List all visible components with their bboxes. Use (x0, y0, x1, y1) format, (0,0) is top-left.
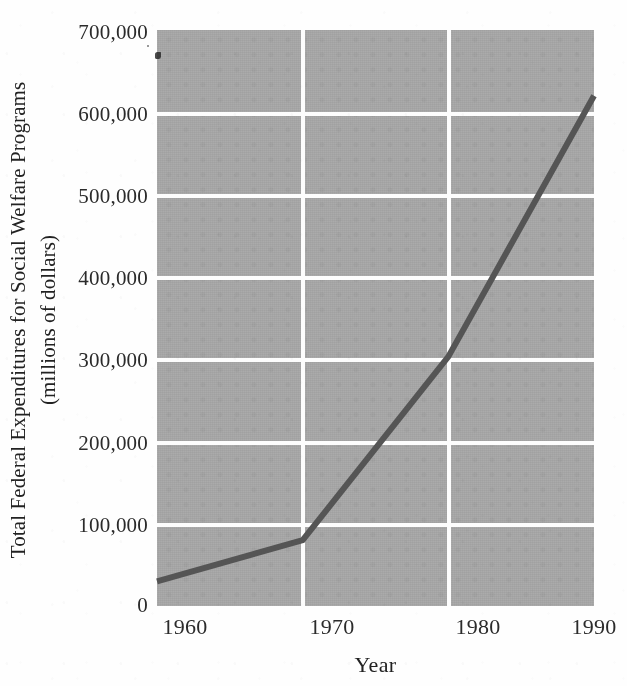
y-axis-title-line1: Total Federal Expenditures for Social We… (6, 82, 30, 559)
x-tick-1970: 1970 (309, 615, 354, 639)
scan-artifact-speck (155, 52, 161, 59)
y-tick-100000: 100,000 (78, 515, 148, 536)
y-axis-title-line2: (millions of dollars) (33, 82, 63, 559)
y-tick-500000: 500,000 (78, 186, 148, 207)
y-tick-600000: 600,000 (78, 104, 148, 125)
x-tick-1960: 1960 (162, 615, 207, 639)
y-tick-700000: 700,000 (78, 22, 148, 43)
x-axis-title: Year (157, 652, 594, 678)
chart-figure: 700,000 600,000 500,000 400,000 300,000 … (0, 0, 627, 686)
x-tick-1980: 1980 (455, 615, 500, 639)
y-axis-title-wrapper: Total Federal Expenditures for Social We… (0, 0, 66, 640)
y-tick-300000: 300,000 (78, 350, 148, 371)
y-axis-title: Total Federal Expenditures for Social We… (3, 82, 63, 559)
x-tick-1990: 1990 (571, 615, 616, 639)
y-tick-0: 0 (137, 595, 148, 616)
plot-area (157, 30, 594, 606)
data-line-svg (157, 30, 594, 606)
y-tick-200000: 200,000 (78, 433, 148, 454)
series-line (157, 96, 594, 581)
y-tick-400000: 400,000 (78, 268, 148, 289)
